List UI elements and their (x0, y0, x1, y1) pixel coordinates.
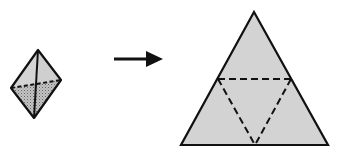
triangle-net (181, 12, 328, 145)
figure-canvas (0, 0, 337, 162)
arrow-right-icon (114, 51, 163, 67)
tetrahedron-solid (11, 50, 61, 118)
